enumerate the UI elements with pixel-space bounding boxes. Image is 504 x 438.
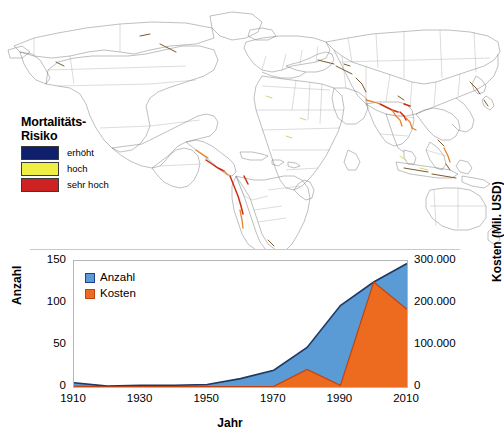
y-tick-50: 50: [34, 338, 66, 349]
map-legend-title: Mortalitäts- Risiko: [21, 116, 156, 143]
y2-tick-100000: 100.000: [414, 338, 456, 349]
x-tick-1930: 1930: [117, 393, 163, 404]
x-tick-2010: 2010: [383, 393, 429, 404]
x-tick-1990: 1990: [316, 393, 362, 404]
chart-legend-label-anzahl: Anzahl: [100, 272, 135, 283]
chart-legend-swatch-anzahl: [85, 273, 95, 283]
chart-legend-item-kosten: Kosten: [85, 288, 136, 299]
legend-label-erhoeht: erhöht: [67, 148, 94, 158]
map-legend-item-erhoeht: erhöht: [21, 146, 156, 160]
map-legend-title-line2: Risiko: [21, 130, 156, 144]
y2-tick-300000: 300.000: [414, 254, 456, 265]
x-tick-1950: 1950: [183, 393, 229, 404]
y2-tick-200000: 200.000: [414, 296, 456, 307]
y-tick-150: 150: [34, 254, 66, 265]
chart-panel: Anzahl Kosten (Mil. USD) Jahr 050100150 …: [0, 250, 504, 438]
y-tick-0: 0: [34, 380, 66, 391]
x-axis-title: Jahr: [0, 416, 460, 430]
map-legend: Mortalitäts- Risiko erhöht hoch sehr hoc…: [21, 116, 156, 194]
chart-legend-swatch-kosten: [85, 289, 95, 299]
map-legend-title-line1: Mortalitäts-: [21, 116, 156, 130]
map-legend-item-hoch: hoch: [21, 162, 156, 176]
y2-axis-title: Kosten (Mil. USD): [490, 181, 504, 282]
legend-swatch-erhoeht: [21, 146, 59, 160]
chart-legend: Anzahl Kosten: [85, 272, 136, 304]
legend-label-sehr-hoch: sehr hoch: [67, 180, 109, 190]
chart-legend-label-kosten: Kosten: [100, 288, 136, 299]
y-tick-100: 100: [34, 296, 66, 307]
y2-tick-0: 0: [414, 380, 420, 391]
y-axis-title: Anzahl: [10, 266, 24, 305]
world-map-panel: Mortalitäts- Risiko erhöht hoch sehr hoc…: [0, 0, 504, 250]
legend-label-hoch: hoch: [67, 164, 88, 174]
x-tick-1910: 1910: [50, 393, 96, 404]
legend-swatch-hoch: [21, 162, 59, 176]
legend-swatch-sehr-hoch: [21, 178, 59, 192]
chart-legend-item-anzahl: Anzahl: [85, 272, 136, 283]
map-legend-item-sehr-hoch: sehr hoch: [21, 178, 156, 192]
x-tick-1970: 1970: [250, 393, 296, 404]
